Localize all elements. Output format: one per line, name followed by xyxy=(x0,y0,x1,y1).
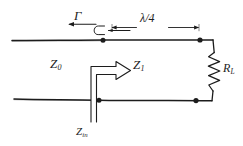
gamma-reflection-arrow xyxy=(68,22,130,35)
bottom-transmission-line xyxy=(14,99,212,101)
reflection-coefficient-label: Γ xyxy=(74,9,81,22)
source-impedance-label: Z0 xyxy=(50,57,61,70)
load-resistance-subscript: L xyxy=(230,67,234,76)
load-resistor-zigzag xyxy=(208,53,219,92)
input-impedance-label: Zin xyxy=(76,126,87,137)
bottom-left-node xyxy=(97,98,102,103)
section-impedance-subscript: 1 xyxy=(140,64,144,73)
top-right-node xyxy=(197,37,202,42)
circuit-diagram-figure: Γ λ/4 Z0 Z1 RL Zin xyxy=(0,0,243,146)
quarter-wavelength-label: λ/4 xyxy=(140,12,155,24)
input-impedance-subscript: in xyxy=(82,131,87,138)
load-resistance-label: RL xyxy=(223,62,234,74)
bottom-right-node xyxy=(193,98,198,103)
top-left-node xyxy=(101,38,106,43)
circuit-diagram-canvas xyxy=(0,0,243,146)
source-impedance-subscript: 0 xyxy=(57,63,61,72)
zin-arrow xyxy=(91,62,131,123)
load-connection-wires xyxy=(212,40,214,101)
top-transmission-line xyxy=(12,40,213,41)
section-impedance-label: Z1 xyxy=(133,58,144,71)
